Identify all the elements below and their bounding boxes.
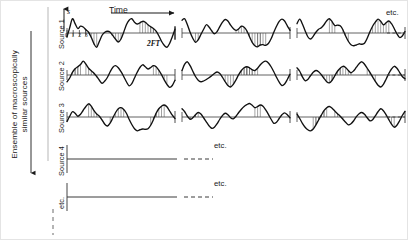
- waveform-panel: [297, 106, 405, 130]
- row-label-source-2: Source 2: [57, 61, 66, 91]
- time-axis-label: Time: [109, 5, 128, 15]
- waveform-panel: [297, 62, 405, 87]
- ensemble-label: Ensemble of macroscopically similar sour…: [10, 30, 31, 178]
- waveform-panel: [182, 103, 290, 128]
- row-label-etc: etc.: [57, 197, 66, 209]
- row-label-source-3: Source 3: [57, 103, 66, 133]
- tick-number-labels: 0 1 2 3: [65, 32, 89, 38]
- etc-label-etc-row: etc.: [214, 179, 227, 188]
- row-label-source-4: Source 4: [57, 146, 66, 176]
- figure-container: Ensemble of macroscopically similar sour…: [0, 0, 408, 240]
- amplitude-symbol: s: [67, 7, 70, 16]
- etc-label-source4-row: etc.: [214, 141, 227, 150]
- etc-label-top-right: etc.: [386, 8, 399, 17]
- waveform-panel: [182, 19, 290, 47]
- waveform-panel: [67, 104, 175, 131]
- waveform-panel: [67, 61, 175, 87]
- waveform-traces-group: [67, 19, 405, 131]
- ensemble-label-wrap: Ensemble of macroscopically similar sour…: [3, 29, 37, 177]
- waveform-panel: [182, 61, 290, 87]
- diagram-axes-group: [31, 7, 174, 173]
- blank-rows-group: [53, 33, 405, 235]
- signal-trace: [182, 61, 290, 87]
- interval-label-2ft: 2FT: [147, 39, 160, 48]
- waveform-panel: [297, 19, 405, 46]
